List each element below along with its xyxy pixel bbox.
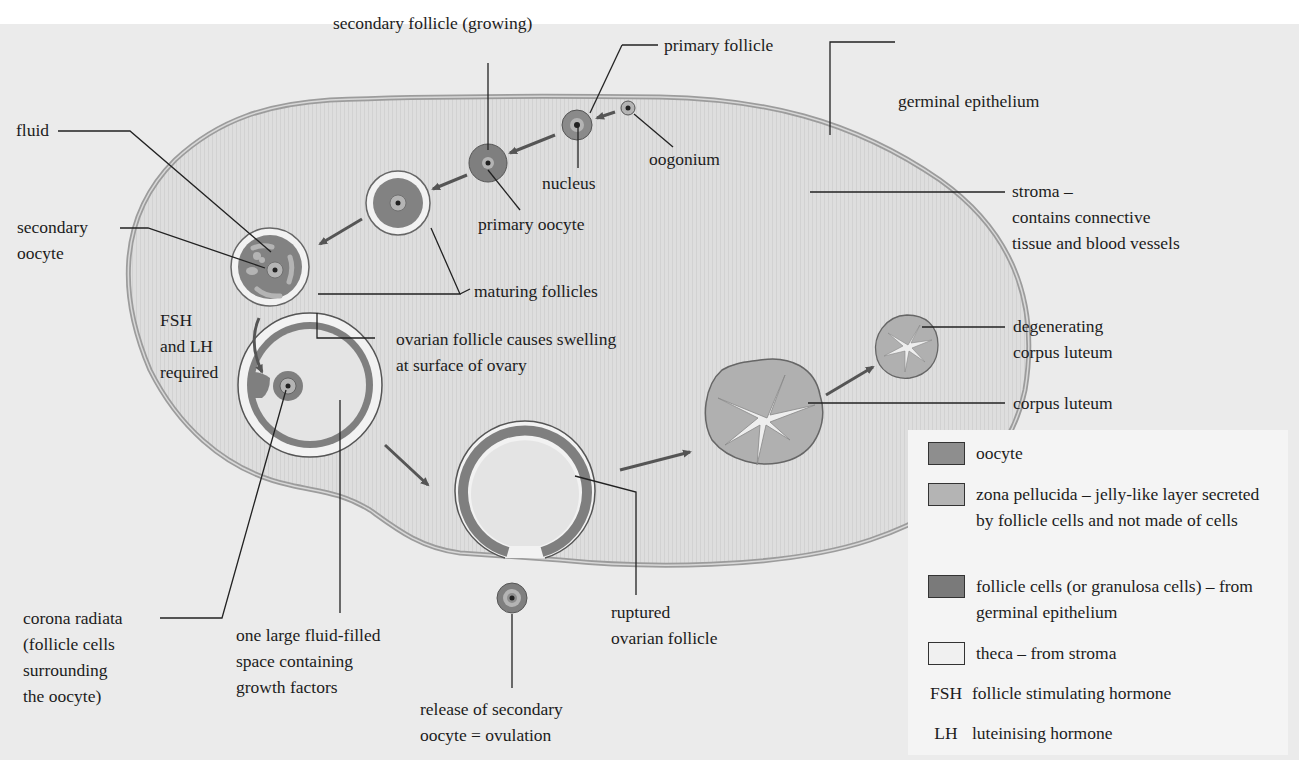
label-fluid-space-line2: space containing [236, 648, 353, 674]
label-corona-line3: surrounding [23, 657, 108, 683]
legend-label: follicle stimulating hormone [972, 680, 1171, 706]
legend-item-follicle-cells: follicle cells (or granulosa cells) – fr… [928, 573, 1276, 625]
maturing-follicle-large-icon [231, 228, 309, 306]
label-fsh-lh-line2: and LH [160, 333, 213, 359]
legend-label: zona pellucida – jelly-like layer secret… [976, 481, 1276, 533]
label-ruptured-line2: ovarian follicle [611, 625, 717, 651]
label-corona-line1: corona radiata [23, 605, 123, 631]
ruptured-follicle-icon [455, 421, 595, 558]
legend-label: theca – from stroma [976, 640, 1276, 666]
label-stroma-line2: contains connective [1012, 204, 1151, 230]
label-germinal-epithelium: germinal epithelium [898, 88, 1039, 114]
label-stroma-line3: tissue and blood vessels [1012, 230, 1180, 256]
label-secondary-oocyte-line2: oocyte [17, 240, 64, 266]
label-oogonium: oogonium [649, 146, 720, 172]
label-nucleus: nucleus [542, 170, 595, 196]
label-swelling-line2: at surface of ovary [396, 352, 527, 378]
label-ovulation-line2: oocyte = ovulation [420, 722, 551, 748]
label-corona-line4: the oocyte) [23, 683, 101, 709]
label-maturing-follicles: maturing follicles [474, 278, 598, 304]
degenerating-corpus-luteum-icon [876, 315, 938, 378]
maturing-follicle-small-icon [366, 171, 430, 235]
oocyte-swatch-icon [928, 442, 965, 465]
label-swelling-line1: ovarian follicle causes swelling [396, 326, 616, 352]
legend-item-fsh: FSH follicle stimulating hormone [922, 680, 1171, 706]
label-ruptured-line1: ruptured [611, 599, 670, 625]
label-primary-oocyte: primary oocyte [478, 211, 584, 237]
corpus-luteum-icon [705, 359, 822, 465]
label-degenerating-line1: degenerating [1013, 313, 1103, 339]
label-secondary-oocyte-line1: secondary [17, 214, 88, 240]
ovary-diagram: secondary follicle (growing) primary fol… [0, 0, 1299, 760]
label-degenerating-line2: corpus luteum [1013, 339, 1113, 365]
graafian-follicle-icon [238, 313, 382, 457]
label-fluid: fluid [16, 117, 49, 143]
label-ovulation-line1: release of secondary [420, 696, 563, 722]
primary-follicle-icon [562, 110, 592, 140]
released-oocyte-icon [497, 583, 527, 613]
label-primary-follicle: primary follicle [664, 32, 773, 58]
oogonium-icon [621, 101, 635, 115]
label-fluid-space-line3: growth factors [236, 674, 338, 700]
legend-item-oocyte: oocyte [928, 440, 1276, 466]
theca-swatch-icon [928, 642, 965, 665]
label-fluid-space-line1: one large fluid-filled [236, 622, 381, 648]
follicle-cells-swatch-icon [928, 575, 965, 598]
zona-pellucida-swatch-icon [928, 483, 965, 506]
label-stroma-line1: stroma – [1012, 178, 1073, 204]
legend-label: luteinising hormone [972, 720, 1112, 746]
legend-item-lh: LH luteinising hormone [922, 720, 1112, 746]
legend: oocyte zona pellucida – jelly-like layer… [908, 430, 1288, 755]
label-fsh-lh-line1: FSH [160, 307, 192, 333]
legend-abbr: LH [922, 720, 970, 746]
label-secondary-follicle: secondary follicle (growing) [333, 10, 532, 36]
legend-item-zona-pellucida: zona pellucida – jelly-like layer secret… [928, 481, 1276, 533]
label-corpus-luteum: corpus luteum [1013, 390, 1113, 416]
label-fsh-lh-line3: required [160, 359, 218, 385]
legend-label: follicle cells (or granulosa cells) – fr… [976, 573, 1276, 625]
legend-label: oocyte [976, 440, 1276, 466]
label-corona-line2: (follicle cells [23, 631, 115, 657]
legend-abbr: FSH [922, 680, 970, 706]
legend-item-theca: theca – from stroma [928, 640, 1276, 666]
